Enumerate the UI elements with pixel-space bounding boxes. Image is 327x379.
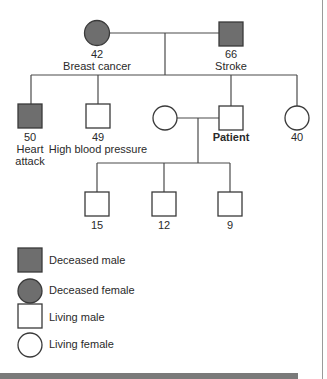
child-1-age: 15 [82,219,112,232]
aunt-living-female-icon [285,106,309,130]
bottom-rule [0,373,298,379]
uncle-living-male-icon [86,104,110,128]
grandfather-deceased-male-icon [219,22,243,46]
grandmother-deceased-female-icon [85,21,110,46]
aunt-age: 40 [282,131,312,144]
child-3-age: 9 [215,219,245,232]
uncle-2-condition: High blood pressure [48,143,148,156]
child-2-living-male-icon [152,192,176,216]
child-1-living-male-icon [85,192,109,216]
page-border [322,0,323,379]
grandmother-condition: Breast cancer [47,60,147,73]
patient-label: Patient [206,131,256,144]
spouse-living-female-icon [153,106,177,130]
grandfather-condition: Stroke [201,60,261,73]
uncle-1-condition-line2: attack [10,155,50,168]
legend-deceased-male-icon [18,248,42,272]
legend-living-male-icon [18,304,42,328]
uncle-deceased-male-icon [18,104,42,128]
legend-label-deceased-female: Deceased female [49,284,135,297]
child-2-age: 12 [149,219,179,232]
child-3-living-male-icon [218,192,242,216]
legend-deceased-female-icon [18,279,42,303]
patient-living-male-icon [219,106,243,130]
legend-label-living-male: Living male [49,311,105,324]
legend-label-deceased-male: Deceased male [49,254,125,267]
legend-label-living-female: Living female [49,338,114,351]
legend-living-female-icon [18,333,42,357]
